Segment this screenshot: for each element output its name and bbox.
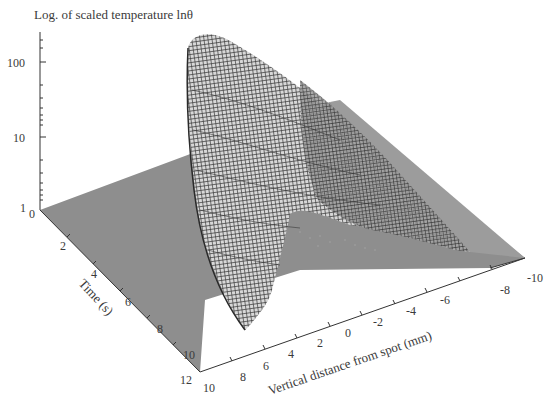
time-tick-8: 8 — [157, 322, 163, 336]
plot-canvas: Log. of scaled temperature lnθ 100 10 1 … — [0, 0, 558, 400]
dist-tick-4: 4 — [288, 347, 294, 361]
surface-plot: Log. of scaled temperature lnθ 100 10 1 … — [0, 0, 558, 400]
time-tick-0: 0 — [29, 207, 35, 221]
dist-tick-m4: -4 — [406, 304, 416, 318]
z-axis-title: Log. of scaled temperature lnθ — [34, 7, 193, 22]
dist-tick-2: 2 — [317, 336, 323, 350]
z-tick-100: 100 — [7, 56, 25, 70]
time-tick-4: 4 — [91, 267, 97, 281]
dist-tick-m10: -10 — [527, 271, 543, 285]
dist-tick-10: 10 — [203, 381, 215, 395]
dist-tick-6: 6 — [263, 359, 269, 373]
dist-tick-0: 0 — [345, 326, 351, 340]
dist-tick-8: 8 — [240, 370, 246, 384]
z-tick-1: 1 — [20, 201, 26, 215]
time-tick-2: 2 — [60, 239, 66, 253]
time-tick-6: 6 — [125, 295, 131, 309]
dist-tick-m6: -6 — [440, 293, 450, 307]
time-tick-10: 10 — [183, 348, 195, 362]
z-axis — [40, 32, 46, 210]
time-tick-12: 12 — [180, 373, 192, 387]
dist-tick-m8: -8 — [500, 283, 510, 297]
dist-tick-m2: -2 — [373, 315, 383, 329]
z-tick-10: 10 — [13, 131, 25, 145]
